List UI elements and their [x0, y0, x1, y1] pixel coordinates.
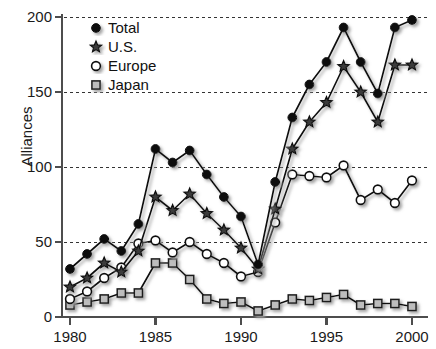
data-point	[287, 143, 298, 154]
star-glyph	[90, 41, 101, 52]
x-tick-label: 1990	[213, 328, 269, 345]
open-square-icon	[88, 77, 106, 93]
data-point	[322, 58, 331, 67]
data-point	[134, 289, 142, 297]
data-point	[391, 23, 400, 32]
x-tick-label: 2000	[384, 328, 436, 345]
data-point	[202, 250, 211, 259]
open-circle-glyph	[92, 61, 101, 70]
data-point	[271, 301, 279, 309]
legend-label: Total	[108, 19, 140, 36]
data-point	[83, 287, 92, 296]
legend-item-total[interactable]: Total	[88, 18, 156, 37]
legend-label: U.S.	[108, 38, 137, 55]
y-tick-label: 100	[8, 158, 52, 175]
data-point	[66, 295, 75, 304]
legend-label: Japan	[108, 76, 149, 93]
legend-label: Europe	[108, 57, 156, 74]
data-point	[134, 220, 143, 229]
data-point	[237, 272, 246, 281]
data-point	[339, 161, 348, 170]
data-point	[406, 59, 417, 70]
data-point	[305, 172, 314, 181]
chart-legend: TotalU.S.EuropeJapan	[88, 18, 156, 94]
data-point	[339, 23, 348, 32]
open-square-glyph	[92, 80, 100, 88]
data-point	[168, 248, 177, 257]
data-point	[237, 298, 245, 306]
data-point	[203, 295, 211, 303]
data-point	[100, 295, 108, 303]
x-tick-label: 1995	[299, 328, 355, 345]
data-point	[338, 61, 349, 72]
y-tick-label: 50	[8, 233, 52, 250]
data-point	[151, 259, 159, 267]
data-point	[254, 307, 262, 315]
legend-item-us[interactable]: U.S.	[88, 37, 156, 56]
data-point	[220, 259, 229, 268]
data-point	[185, 146, 194, 155]
data-point	[373, 89, 382, 98]
data-point	[305, 80, 314, 89]
data-point	[220, 193, 229, 202]
data-point	[254, 260, 263, 269]
data-point	[117, 247, 126, 256]
data-point	[372, 116, 383, 127]
data-point	[169, 259, 177, 267]
data-point	[357, 301, 365, 309]
data-point	[151, 145, 160, 154]
data-point	[340, 290, 348, 298]
data-point	[186, 275, 194, 283]
data-point	[202, 170, 211, 179]
x-tick-label: 1985	[128, 328, 184, 345]
data-point	[391, 299, 399, 307]
filled-circle-icon	[88, 20, 106, 36]
data-point	[237, 212, 246, 221]
data-point	[117, 289, 125, 297]
star-icon	[88, 39, 106, 55]
y-tick-label: 200	[8, 8, 52, 25]
data-point	[321, 97, 332, 108]
data-point	[408, 302, 416, 310]
data-point	[151, 236, 160, 245]
series-europe	[66, 161, 417, 303]
data-point	[83, 298, 91, 306]
y-tick-label: 150	[8, 83, 52, 100]
legend-item-japan[interactable]: Japan	[88, 75, 156, 94]
data-point	[305, 296, 313, 304]
data-point	[373, 185, 382, 194]
data-point	[185, 238, 194, 247]
data-point	[288, 170, 297, 179]
data-point	[355, 86, 366, 97]
data-point	[389, 59, 400, 70]
data-point	[288, 295, 296, 303]
plot-area	[0, 0, 436, 349]
alliances-line-chart: Alliances 050100150200 19801985199019952…	[0, 0, 436, 349]
data-point	[288, 113, 297, 122]
data-point	[220, 299, 228, 307]
data-point	[374, 299, 382, 307]
x-tick-label: 1980	[42, 328, 98, 345]
data-point	[391, 199, 400, 208]
data-point	[322, 293, 330, 301]
data-point	[356, 196, 365, 205]
data-point	[271, 178, 280, 187]
filled-circle-glyph	[92, 23, 101, 32]
y-tick-label: 0	[8, 308, 52, 325]
data-point	[83, 250, 92, 259]
data-point	[356, 58, 365, 67]
data-point	[100, 274, 109, 283]
data-point	[100, 235, 109, 244]
open-circle-icon	[88, 58, 106, 74]
data-point	[322, 173, 331, 182]
data-point	[408, 176, 417, 185]
data-point	[168, 158, 177, 167]
legend-item-europe[interactable]: Europe	[88, 56, 156, 75]
data-point	[64, 281, 75, 292]
data-point	[66, 265, 75, 274]
data-point	[408, 16, 417, 25]
